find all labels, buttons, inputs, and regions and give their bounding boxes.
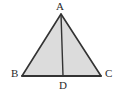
geometry-figure: A B D C: [0, 0, 122, 97]
vertex-label-a: A: [56, 1, 64, 12]
vertex-label-b: B: [11, 68, 18, 79]
vertex-label-d: D: [59, 80, 67, 91]
vertex-label-c: C: [105, 68, 112, 79]
